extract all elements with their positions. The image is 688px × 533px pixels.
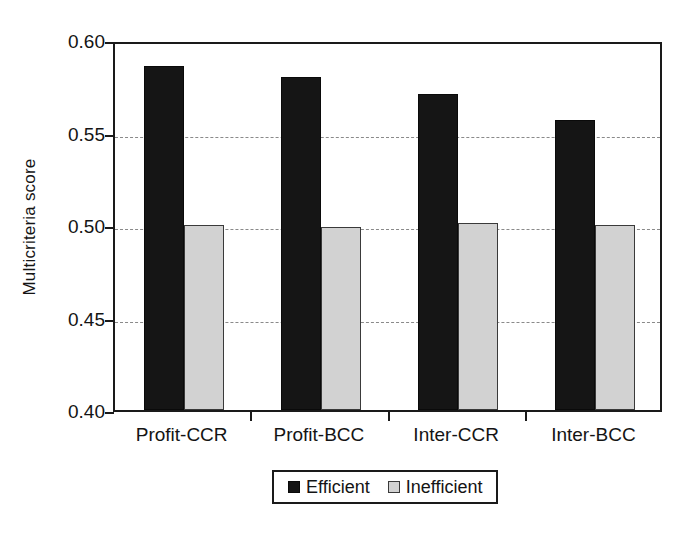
filled-black-square-icon	[288, 481, 300, 493]
legend-item-inefficient: Inefficient	[388, 477, 483, 498]
y-tick-label: 0.50	[43, 216, 105, 238]
bar-efficient-profit-bcc	[281, 77, 321, 410]
x-tick-mark	[388, 412, 390, 421]
y-tick-mark	[105, 227, 114, 229]
bar-inefficient-profit-ccr	[184, 225, 224, 410]
y-axis-title-text: Multicriteria score	[19, 159, 39, 296]
x-tick-mark	[525, 412, 527, 421]
plot-area	[113, 42, 662, 412]
bar-inefficient-inter-bcc	[595, 225, 635, 410]
y-tick-mark	[105, 42, 114, 44]
legend-label: Inefficient	[406, 477, 483, 498]
bar-chart-figure: Multicriteria score 0.400.450.500.550.60…	[0, 0, 688, 533]
x-category-label-inter-ccr: Inter-CCR	[388, 424, 525, 446]
x-category-label-profit-bcc: Profit-BCC	[250, 424, 387, 446]
y-tick-mark	[105, 135, 114, 137]
legend-item-efficient: Efficient	[288, 477, 370, 498]
x-category-label-inter-bcc: Inter-BCC	[525, 424, 662, 446]
y-tick-label: 0.40	[43, 401, 105, 423]
x-tick-mark	[250, 412, 252, 421]
chart-legend: EfficientInefficient	[272, 470, 498, 504]
bar-efficient-inter-bcc	[555, 120, 595, 410]
y-tick-label: 0.60	[43, 31, 105, 53]
y-tick-label: 0.45	[43, 309, 105, 331]
bar-efficient-profit-ccr	[144, 66, 184, 410]
filled-gray-square-icon	[388, 481, 400, 493]
bar-efficient-inter-ccr	[418, 94, 458, 410]
x-category-label-profit-ccr: Profit-CCR	[113, 424, 250, 446]
y-axis-tick-labels: 0.400.450.500.550.60	[38, 0, 105, 533]
y-tick-label: 0.55	[43, 124, 105, 146]
y-tick-mark	[105, 412, 114, 414]
bar-inefficient-profit-bcc	[321, 227, 361, 410]
legend-label: Efficient	[306, 477, 370, 498]
bar-inefficient-inter-ccr	[458, 223, 498, 410]
y-tick-mark	[105, 320, 114, 322]
